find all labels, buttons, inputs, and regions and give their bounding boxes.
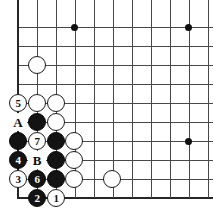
stone-white[interactable] xyxy=(28,94,46,112)
stone-black[interactable] xyxy=(47,151,65,169)
stone-move-number: 4 xyxy=(15,154,20,165)
stone-white[interactable] xyxy=(47,94,65,112)
numbered-stone-black-4[interactable]: 4 xyxy=(9,151,27,169)
stone-white[interactable] xyxy=(65,170,83,188)
stone-white[interactable] xyxy=(47,113,65,131)
numbered-stone-white-7[interactable]: 7 xyxy=(28,132,46,150)
stone-move-number: 2 xyxy=(34,192,39,203)
stone-move-number: 3 xyxy=(15,173,20,184)
stone-black[interactable] xyxy=(9,132,27,150)
go-board-diagram: 5743621AB xyxy=(0,0,213,223)
stone-white[interactable] xyxy=(103,170,121,188)
numbered-stone-black-2[interactable]: 2 xyxy=(28,189,46,207)
stone-move-number: 5 xyxy=(15,97,20,108)
numbered-stone-white-3[interactable]: 3 xyxy=(9,170,27,188)
stone-black[interactable] xyxy=(47,170,65,188)
numbered-stone-white-1[interactable]: 1 xyxy=(47,189,65,207)
stone-move-number: 1 xyxy=(53,192,58,203)
stone-white[interactable] xyxy=(28,56,46,74)
stone-white[interactable] xyxy=(65,132,83,150)
stone-move-number: 7 xyxy=(34,135,39,146)
point-label-a: A xyxy=(9,113,27,131)
board-stones: 5743621AB xyxy=(0,0,213,223)
stone-black[interactable] xyxy=(28,113,46,131)
stone-move-number: 6 xyxy=(34,173,39,184)
stone-black[interactable] xyxy=(47,132,65,150)
numbered-stone-white-5[interactable]: 5 xyxy=(9,94,27,112)
stone-white[interactable] xyxy=(65,151,83,169)
numbered-stone-black-6[interactable]: 6 xyxy=(28,170,46,188)
point-label-b: B xyxy=(28,151,46,169)
